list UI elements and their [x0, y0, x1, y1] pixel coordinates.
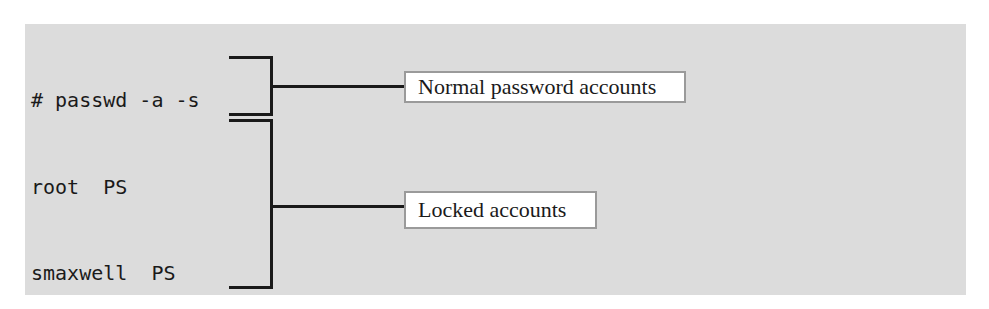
bracket-top-line: [229, 56, 273, 59]
output-line-smaxwell: smaxwell PS: [31, 259, 200, 288]
bracket-bottom-line: [229, 113, 273, 116]
terminal-output: # passwd -a -s root PS smaxwell PS daemo…: [31, 29, 200, 309]
normal-accounts-label: Normal password accounts: [404, 71, 686, 103]
command-line: # passwd -a -s: [31, 86, 200, 115]
locked-accounts-label: Locked accounts: [404, 191, 597, 229]
bracket-top-line: [229, 119, 273, 122]
output-line-root: root PS: [31, 173, 200, 202]
locked-accounts-label-text: Locked accounts: [418, 197, 566, 223]
normal-accounts-label-text: Normal password accounts: [418, 74, 656, 100]
bracket-vertical-line: [270, 119, 273, 289]
bracket-connector-line: [270, 85, 405, 88]
bracket-connector-line: [270, 205, 405, 208]
bracket-bottom-line: [229, 286, 273, 289]
